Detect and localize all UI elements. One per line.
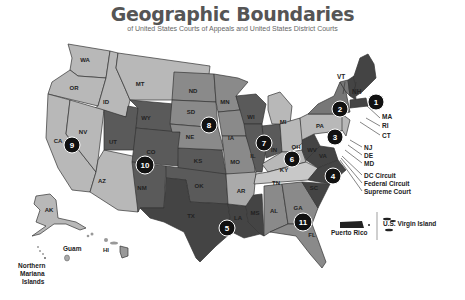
- callout-nj: NJ: [364, 144, 373, 151]
- svg-text:7: 7: [262, 139, 267, 148]
- label-mi: MI: [280, 119, 287, 125]
- callout-federal-circuit: Federal Circuit: [364, 180, 410, 187]
- label-ky: KY: [280, 167, 288, 173]
- circuit-badge-3[interactable]: 3: [327, 129, 343, 145]
- nmi-shape: [37, 246, 46, 259]
- state-fl[interactable]: [270, 224, 326, 268]
- state-ak[interactable]: [32, 194, 86, 236]
- label-al: AL: [270, 208, 278, 214]
- callout-ct: CT: [382, 132, 391, 139]
- label-ut: UT: [109, 139, 117, 145]
- callout-vt: VT: [337, 73, 345, 80]
- state-hi[interactable]: [87, 233, 128, 259]
- label-nmi-2: Mariana: [20, 270, 45, 277]
- label-la: LA: [234, 215, 243, 221]
- label-ok: OK: [195, 183, 205, 189]
- callout-ri: RI: [382, 122, 389, 129]
- label-wy: WY: [141, 115, 151, 121]
- state-nd[interactable]: [172, 72, 216, 102]
- label-wi: WI: [247, 114, 255, 120]
- label-sc: SC: [310, 185, 319, 191]
- label-fl: FL: [308, 232, 316, 238]
- circuit-badge-2[interactable]: 2: [332, 101, 348, 117]
- label-ga: GA: [294, 205, 304, 211]
- svg-text:2: 2: [338, 105, 343, 114]
- state-ma[interactable]: [350, 98, 368, 108]
- label-wv: WV: [307, 147, 317, 153]
- guam-shape: [65, 255, 70, 261]
- label-ne: NE: [186, 134, 194, 140]
- label-az: AZ: [98, 178, 106, 184]
- label-sd: SD: [187, 109, 196, 115]
- callout-de: DE: [364, 152, 374, 159]
- label-nm: NM: [137, 185, 146, 191]
- label-mt: MT: [136, 81, 145, 87]
- label-virgin-islands: U.S. Virgin Island: [383, 220, 436, 228]
- circuit-badge-1[interactable]: 1: [368, 94, 384, 110]
- label-pa: PA: [316, 123, 325, 129]
- us-circuits-map: WA OR ID MT CA NV AZ UT WY CO NM ND SD N…: [0, 0, 465, 300]
- svg-text:4: 4: [331, 172, 336, 181]
- circuit-badge-9[interactable]: 9: [64, 137, 80, 153]
- svg-text:10: 10: [141, 161, 150, 170]
- label-ia: IA: [228, 135, 235, 141]
- label-va: VA: [319, 153, 328, 159]
- callout-nh: NH: [352, 88, 362, 95]
- label-nmi-3: Islands: [22, 278, 45, 285]
- svg-text:8: 8: [207, 121, 212, 130]
- label-ak: AK: [45, 207, 54, 213]
- label-co: CO: [147, 149, 156, 155]
- callout-ma: MA: [382, 113, 392, 120]
- circuit-badge-8[interactable]: 8: [201, 117, 217, 133]
- state-nj[interactable]: [342, 114, 350, 136]
- svg-text:3: 3: [333, 133, 338, 142]
- label-ms: MS: [251, 210, 260, 216]
- label-nd: ND: [189, 88, 198, 94]
- circuit-badge-6[interactable]: 6: [284, 151, 300, 167]
- circuit-badge-5[interactable]: 5: [219, 220, 235, 236]
- circuit-badge-10[interactable]: 10: [136, 156, 154, 174]
- svg-text:11: 11: [299, 218, 308, 227]
- callout-md: MD: [364, 160, 374, 167]
- label-mo: MO: [230, 159, 240, 165]
- label-hi: HI: [103, 247, 109, 253]
- svg-text:5: 5: [225, 224, 230, 233]
- label-il: IL: [250, 153, 256, 159]
- label-in: IN: [271, 147, 277, 153]
- callout-supreme-court: Supreme Court: [364, 188, 412, 196]
- label-wa: WA: [80, 57, 90, 63]
- label-tx: TX: [187, 213, 195, 219]
- svg-text:9: 9: [70, 141, 75, 150]
- label-ks: KS: [194, 158, 202, 164]
- label-tn: TN: [272, 180, 280, 186]
- label-ca: CA: [54, 138, 63, 144]
- label-mn: MN: [220, 99, 229, 105]
- label-puerto-rico: Puerto Rico: [331, 229, 368, 236]
- label-or: OR: [70, 85, 80, 91]
- puerto-rico-shape: [340, 221, 370, 228]
- label-guam: Guam: [63, 245, 82, 252]
- label-nv: NV: [79, 129, 87, 135]
- label-ar: AR: [237, 188, 246, 194]
- svg-text:1: 1: [374, 98, 379, 107]
- circuit-badge-11[interactable]: 11: [294, 213, 312, 231]
- callout-dc-circuit: DC Circuit: [364, 172, 397, 179]
- label-oh: OH: [292, 144, 301, 150]
- label-id: ID: [103, 99, 110, 105]
- circuit-badge-7[interactable]: 7: [256, 135, 272, 151]
- label-nmi-1: Northern: [18, 262, 45, 269]
- svg-text:6: 6: [290, 155, 295, 164]
- circuit-badge-4[interactable]: 4: [325, 168, 341, 184]
